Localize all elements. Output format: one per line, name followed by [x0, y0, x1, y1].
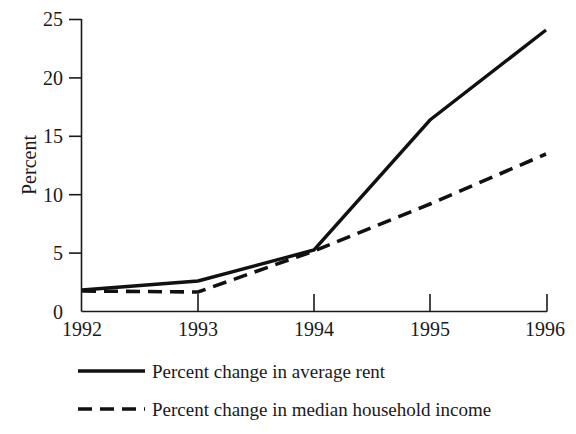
y-tick-label-20: 20: [43, 67, 63, 89]
y-tick-label-5: 5: [53, 242, 63, 264]
series-line-average-rent: [82, 30, 546, 290]
y-tick-label-10: 10: [43, 184, 63, 206]
x-tick-label-1993: 1993: [178, 318, 218, 340]
x-tick-label-1996: 1996: [525, 318, 565, 340]
x-tick-label-1994: 1994: [294, 318, 334, 340]
x-tick-label-1995: 1995: [410, 318, 450, 340]
x-tick-label-1992: 1992: [62, 318, 102, 340]
y-tick-label-25: 25: [43, 8, 63, 30]
line-chart: 25 20 15 10 5 0 1992 1993 1994 1995 1996…: [0, 0, 576, 434]
legend-label-average-rent: Percent change in average rent: [152, 361, 386, 382]
y-axis-title: Percent: [18, 135, 40, 195]
chart-figure: 25 20 15 10 5 0 1992 1993 1994 1995 1996…: [0, 0, 576, 434]
y-tick-label-15: 15: [43, 125, 63, 147]
legend-label-median-household-income: Percent change in median household incom…: [152, 399, 491, 420]
series-line-median-household-income: [82, 154, 546, 292]
